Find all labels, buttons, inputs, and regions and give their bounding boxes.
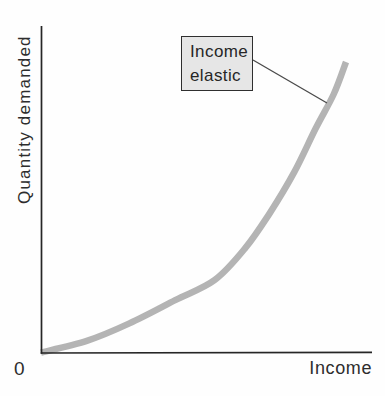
origin-label: 0 <box>14 358 25 380</box>
x-axis-line <box>41 352 372 353</box>
demand-curve <box>41 62 346 353</box>
x-axis-label: Income <box>309 358 372 379</box>
annotation-leader-line <box>253 60 327 103</box>
callout-line-2: elastic <box>190 64 252 88</box>
income-elastic-callout: Income elastic <box>181 36 253 91</box>
income-elastic-figure: Quantity demanded 0 Income Income elasti… <box>0 0 385 396</box>
callout-line-1: Income <box>190 40 252 64</box>
y-axis-label: Quantity demanded <box>15 35 35 204</box>
